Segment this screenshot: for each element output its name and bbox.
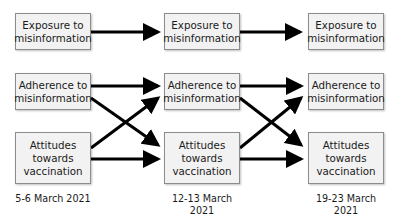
date-label-t2: 12-13 March 2021 [167, 193, 237, 217]
date-label-t3: 19-23 March 2021 [311, 193, 381, 217]
node-adherence-t3: Adherence to misinformation [308, 73, 384, 110]
date-label-t1: 5-6 March 2021 [10, 193, 96, 205]
node-attitudes-t3: Attitudes towards vaccination [308, 132, 384, 184]
node-adherence-t1: Adherence to misinformation [15, 73, 91, 110]
node-exposure-t3: Exposure to misinformation [308, 13, 384, 50]
node-attitudes-t1: Attitudes towards vaccination [15, 132, 91, 184]
cross-lagged-diagram: Exposure to misinformation Adherence to … [0, 0, 397, 223]
node-attitudes-t2: Attitudes towards vaccination [164, 132, 240, 184]
node-adherence-t2: Adherence to misinformation [164, 73, 240, 110]
node-exposure-t2: Exposure to misinformation [164, 13, 240, 50]
node-exposure-t1: Exposure to misinformation [15, 13, 91, 50]
